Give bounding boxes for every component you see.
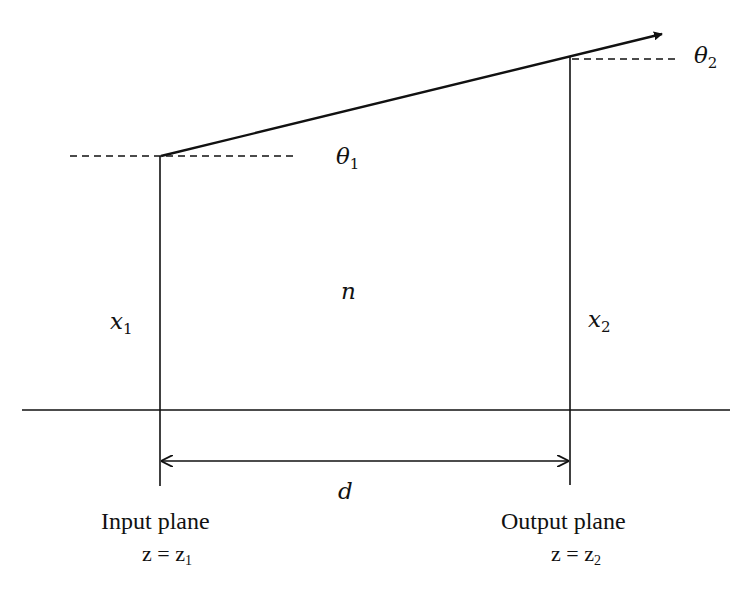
light-ray-arrow bbox=[161, 34, 662, 156]
x1-label: x1 bbox=[110, 310, 133, 337]
x2-label: x2 bbox=[588, 308, 611, 335]
input-plane-equation: z = z1 bbox=[142, 543, 192, 568]
distance-label: d bbox=[338, 480, 353, 503]
diagram-canvas bbox=[0, 0, 744, 593]
theta1-label: θ1 bbox=[336, 145, 359, 172]
input-plane-label: Input plane bbox=[101, 509, 210, 533]
refractive-index-label: n bbox=[341, 280, 356, 303]
output-plane-equation: z = z2 bbox=[551, 543, 601, 568]
theta2-label: θ2 bbox=[694, 44, 717, 71]
output-plane-label: Output plane bbox=[501, 509, 626, 533]
